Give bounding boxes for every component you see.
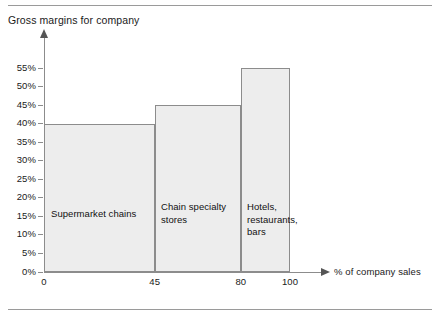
bar-label-line: Supermarket chains	[51, 208, 136, 219]
y-tick-mark	[38, 142, 43, 143]
y-tick-mark	[38, 216, 43, 217]
plot-area: 0% 5% 10% 15% 20% 25% 30% 35% 40% 45% 50…	[0, 0, 440, 319]
x-axis-arrow-icon	[321, 268, 330, 276]
y-tick-mark	[38, 68, 43, 69]
y-axis-label: 55%	[0, 63, 36, 73]
y-tick-mark	[38, 272, 43, 273]
y-axis-label: 10%	[0, 229, 36, 239]
x-axis-title: % of company sales	[334, 266, 421, 277]
y-tick-mark	[38, 105, 43, 106]
y-tick-mark	[38, 160, 43, 161]
y-axis-label: 20%	[0, 192, 36, 202]
y-axis-label: 40%	[0, 118, 36, 128]
y-tick-mark	[38, 179, 43, 180]
y-tick-mark	[38, 253, 43, 254]
y-axis-label: 0%	[0, 267, 36, 277]
bar-chain-specialty-stores[interactable]	[155, 105, 242, 272]
bar-label-line: stores	[161, 214, 239, 227]
y-axis-label: 5%	[0, 248, 36, 258]
bar-label-line: Chain specialty	[161, 201, 239, 214]
bar-hotels-restaurants-bars[interactable]	[241, 68, 291, 272]
y-tick-mark	[38, 197, 43, 198]
y-axis-label: 25%	[0, 174, 36, 184]
bar-label-line: bars	[247, 226, 307, 239]
y-axis-arrow-icon	[40, 29, 48, 38]
x-axis-label: 80	[235, 276, 246, 287]
y-axis-label: 15%	[0, 211, 36, 221]
bar-label-supermarket-chains: Supermarket chains	[51, 208, 151, 221]
x-axis-label: 0	[41, 276, 46, 287]
bar-label-line: restaurants,	[247, 214, 307, 227]
bar-label-hotels-restaurants-bars: Hotels, restaurants, bars	[247, 201, 307, 239]
y-axis-label: 35%	[0, 137, 36, 147]
bar-label-chain-specialty-stores: Chain specialty stores	[161, 201, 239, 226]
y-tick-mark	[38, 234, 43, 235]
y-tick-mark	[38, 86, 43, 87]
bar-label-line: Hotels,	[247, 201, 307, 214]
bar-supermarket-chains[interactable]	[44, 124, 155, 272]
x-axis-label: 100	[282, 276, 298, 287]
x-axis-label: 45	[149, 276, 160, 287]
y-axis-label: 50%	[0, 81, 36, 91]
y-axis-label: 45%	[0, 100, 36, 110]
chart-page: Gross margins for company 0% 5% 10% 15% …	[0, 0, 440, 319]
y-axis-label: 30%	[0, 155, 36, 165]
y-tick-mark	[38, 123, 43, 124]
